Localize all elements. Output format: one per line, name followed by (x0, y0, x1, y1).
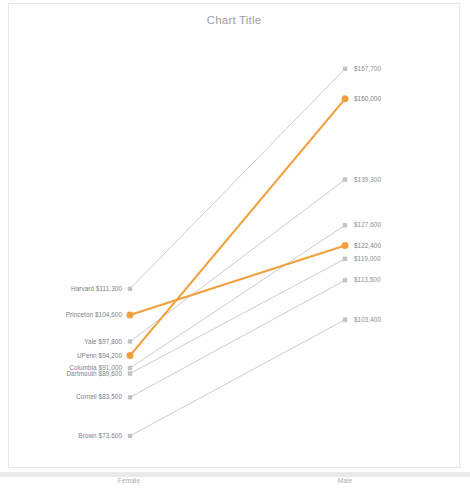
right-label-princeton: $122,400 (354, 242, 381, 249)
chart-frame: Chart Title Harvard $111,300$167,700Prin… (8, 3, 460, 468)
left-label-brown: Brown $73,600 (13, 432, 122, 439)
series-line (130, 225, 345, 368)
series-marker (128, 287, 132, 291)
axis-category-male: Male (285, 477, 405, 484)
series-line (130, 320, 345, 436)
right-label-harvard: $167,700 (354, 65, 381, 72)
series-marker (343, 67, 347, 71)
right-label-brown: $103,400 (354, 316, 381, 323)
left-label-princeton: Princeton $104,600 (13, 311, 122, 318)
axis-category-female: Female (69, 477, 189, 484)
series-marker (343, 317, 347, 321)
series-line (130, 99, 345, 356)
right-label-cornell: $113,500 (354, 276, 381, 283)
left-label-cornell: Cornell $83,500 (13, 393, 122, 400)
series-markers-layer (127, 67, 349, 439)
left-label-yale: Yale $97,800 (13, 338, 122, 345)
series-marker (127, 352, 134, 359)
series-lines-layer (130, 69, 345, 436)
series-line (130, 280, 345, 397)
series-marker (128, 371, 132, 375)
right-label-dartmouth: $119,000 (354, 255, 381, 262)
left-label-upenn: UPenn $94,200 (13, 352, 122, 359)
series-marker (128, 395, 132, 399)
series-marker (342, 95, 349, 102)
series-marker (128, 434, 132, 438)
left-label-dartmouth: Dartmouth $89,600 (13, 370, 122, 377)
series-marker (342, 242, 349, 249)
series-marker (343, 278, 347, 282)
right-label-columbia: $127,600 (354, 221, 381, 228)
left-label-harvard: Harvard $111,300 (13, 285, 122, 292)
series-marker (343, 257, 347, 261)
right-label-yale: $139,300 (354, 176, 381, 183)
right-label-upenn: $160,000 (354, 95, 381, 102)
series-marker (128, 366, 132, 370)
series-marker (127, 311, 134, 318)
series-marker (343, 177, 347, 181)
series-marker (128, 339, 132, 343)
series-marker (343, 223, 347, 227)
page-bottom-rule (0, 472, 470, 477)
